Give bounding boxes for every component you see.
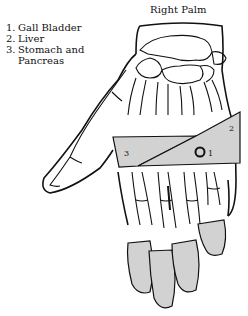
hand-illustration: 3 2 1 [0,0,248,316]
fingertip-index [128,241,154,293]
wrist-outline [136,23,232,120]
finger-outlines [118,172,229,225]
fingertip-little [198,220,226,255]
zone-label-3: 3 [124,149,129,158]
zone-label-2: 2 [229,124,234,133]
metacarpal-bones [128,78,222,115]
finger-bones [132,172,220,228]
fingertip-middle [149,250,175,308]
thumb-bones [50,70,126,186]
crease-line [168,186,170,210]
zone-label-1: 1 [208,149,213,158]
carpal-bones [136,35,226,83]
fingertip-ring [172,240,199,292]
